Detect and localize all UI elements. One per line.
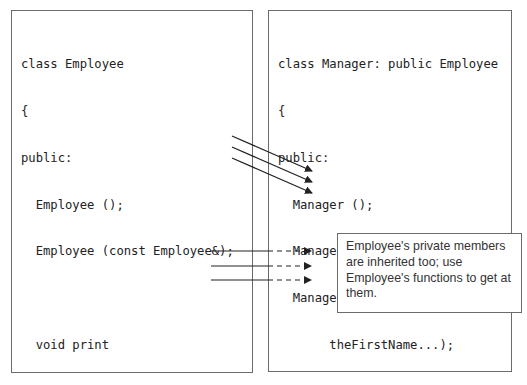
arrow-public-2	[232, 147, 312, 182]
inheritance-arrows	[0, 0, 527, 385]
callout-text: Employee's private members are inherited…	[346, 239, 511, 300]
private-members-callout: Employee's private members are inherited…	[337, 233, 522, 313]
public-member-arrows	[232, 136, 312, 193]
private-member-arrows	[211, 251, 311, 280]
arrow-public-1	[232, 136, 312, 171]
arrow-public-3	[232, 158, 312, 193]
